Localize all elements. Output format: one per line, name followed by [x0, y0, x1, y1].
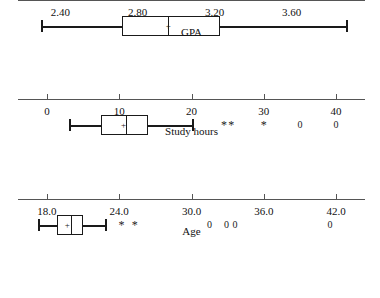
axis-title-study-hours: Study hours [18, 125, 365, 138]
axis-tick [119, 94, 120, 99]
axis-tick [336, 194, 337, 199]
boxplot-figure: + GPA 2.402.803.203.60 +***00 Study hour… [0, 0, 380, 298]
axis-tick-label: 42.0 [326, 205, 345, 217]
panel-study-hours: +***00 Study hours 010203040 [0, 99, 380, 198]
axis-tick [336, 94, 337, 99]
axis-tick [264, 194, 265, 199]
panel-age: +**0000 Age 18.024.030.036.042.0 [0, 199, 380, 298]
axis-tick [47, 194, 48, 199]
axis-tick-label: 18.0 [37, 205, 56, 217]
axis-tick-label: 3.20 [205, 6, 224, 18]
axis-title-gpa: GPA [18, 26, 365, 39]
axis-tick [264, 94, 265, 99]
axis-tick [192, 194, 193, 199]
axis-tick-label: 2.80 [128, 6, 147, 18]
axis-title-age: Age [18, 225, 365, 238]
axis-line [18, 199, 365, 200]
axis-tick [192, 94, 193, 99]
axis-tick-label: 30 [258, 105, 269, 117]
axis-line [18, 99, 365, 100]
axis-line [18, 0, 365, 1]
axis-tick-label: 20 [186, 105, 197, 117]
panel-gpa: + GPA 2.402.803.203.60 [0, 0, 380, 99]
axis-tick-label: 40 [331, 105, 342, 117]
axis-tick [47, 94, 48, 99]
axis-tick-label: 24.0 [110, 205, 129, 217]
axis-tick-label: 30.0 [182, 205, 201, 217]
axis-tick [119, 194, 120, 199]
axis-tick-label: 36.0 [254, 205, 273, 217]
axis-tick-label: 2.40 [51, 6, 70, 18]
axis-tick-label: 3.60 [282, 6, 301, 18]
axis-tick-label: 10 [114, 105, 125, 117]
axis-tick-label: 0 [44, 105, 50, 117]
